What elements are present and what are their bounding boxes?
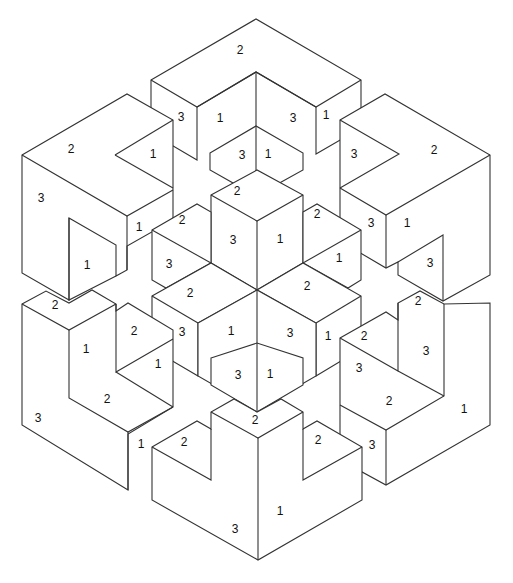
- face-label: 2: [181, 435, 188, 449]
- face-label: 1: [84, 258, 91, 272]
- face-label: 1: [336, 251, 343, 265]
- face-label: 3: [356, 361, 363, 375]
- face-label: 1: [265, 147, 272, 161]
- face-label: 3: [368, 216, 375, 230]
- isometric-puzzle-diagram: 2 3 1 3 1 3 1 2 1 3 1 1 2 3 3 1 3 2 2 2 …: [0, 0, 513, 583]
- face-label: 3: [235, 368, 242, 382]
- face-label: 2: [179, 213, 186, 227]
- face-label: 2: [234, 184, 241, 198]
- face-label: 3: [287, 326, 294, 340]
- face-label: 3: [427, 256, 434, 270]
- face-label: 1: [323, 108, 330, 122]
- face-label: 2: [252, 413, 259, 427]
- face-label: 1: [228, 324, 235, 338]
- face-label: 3: [179, 325, 186, 339]
- face-label: 2: [431, 143, 438, 157]
- face-label: 1: [277, 232, 284, 246]
- face-label: 1: [136, 220, 143, 234]
- face-label: 1: [277, 504, 284, 518]
- face-label: 3: [35, 411, 42, 425]
- face-label: 2: [131, 324, 138, 338]
- face-label: 2: [237, 43, 244, 57]
- face-label: 1: [404, 216, 411, 230]
- upper-left-l-block: [22, 94, 173, 300]
- face-label: 2: [314, 207, 321, 221]
- face-label: 3: [351, 147, 358, 161]
- face-label: 1: [325, 329, 332, 343]
- face-label: 3: [166, 257, 173, 271]
- face-label: 1: [155, 357, 162, 371]
- face-label: 2: [68, 142, 75, 156]
- face-label: 1: [83, 342, 90, 356]
- face-label: 2: [52, 298, 59, 312]
- face-label: 3: [178, 110, 185, 124]
- face-label: 1: [461, 402, 468, 416]
- face-label: 1: [217, 111, 224, 125]
- face-label: 2: [386, 394, 393, 408]
- face-label: 2: [415, 294, 422, 308]
- face-label: 1: [150, 147, 157, 161]
- lower-left-l-block: [22, 290, 173, 490]
- face-label: 3: [369, 438, 376, 452]
- face-label: 1: [267, 367, 274, 381]
- face-label: 3: [232, 522, 239, 536]
- face-label: 3: [38, 191, 45, 205]
- face-label: 3: [239, 148, 246, 162]
- face-label: 2: [187, 286, 194, 300]
- upper-right-l-block: [340, 94, 490, 301]
- face-label: 2: [304, 279, 311, 293]
- face-label: 2: [361, 329, 368, 343]
- face-label: 2: [315, 433, 322, 447]
- face-label: 3: [423, 344, 430, 358]
- face-label: 3: [290, 111, 297, 125]
- face-label: 3: [230, 233, 237, 247]
- face-label: 2: [104, 392, 111, 406]
- central-star-block: [152, 170, 361, 412]
- face-label: 1: [138, 437, 145, 451]
